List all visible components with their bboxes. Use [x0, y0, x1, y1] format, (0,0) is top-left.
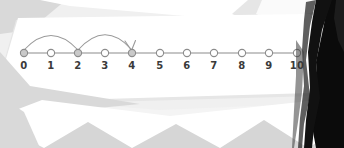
person-silhouette [0, 0, 344, 148]
number-line-label-1: 1 [47, 60, 54, 71]
number-line-label-3: 3 [101, 60, 108, 71]
number-line-label-7: 7 [210, 60, 217, 71]
number-line-label-4: 4 [128, 60, 135, 71]
number-line-label-0: 0 [20, 60, 27, 71]
number-line-illustration: 0 1 2 3 4 5 6 7 8 9 10 [0, 0, 344, 148]
number-line-label-8: 8 [238, 60, 245, 71]
number-line-label-6: 6 [183, 60, 190, 71]
number-line-label-9: 9 [265, 60, 272, 71]
number-line-label-2: 2 [74, 60, 81, 71]
number-line-label-10: 10 [290, 60, 305, 71]
number-line-label-5: 5 [156, 60, 163, 71]
